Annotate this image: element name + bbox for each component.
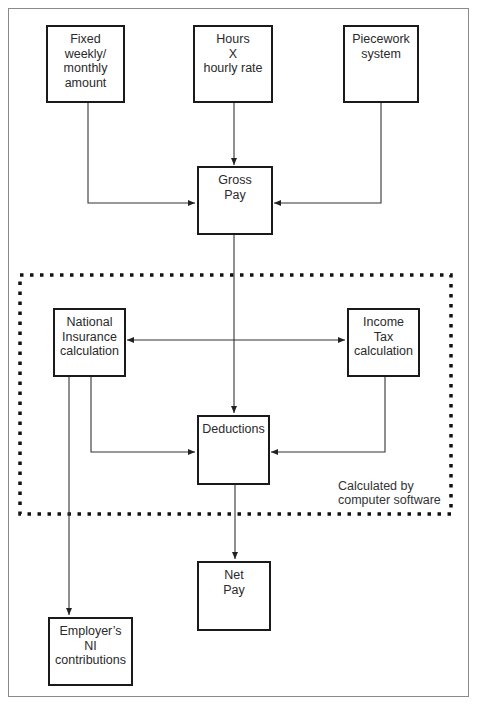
node-label-line: X xyxy=(195,47,271,62)
node-hours-rate: Hours X hourly rate xyxy=(193,25,273,103)
node-deductions: Deductions xyxy=(197,415,270,485)
node-label-line: Tax xyxy=(349,330,418,345)
node-label-line: Deductions xyxy=(199,422,268,437)
edge-ni-to-deductions xyxy=(91,376,195,452)
node-national-insurance: National Insurance calculation xyxy=(53,308,126,377)
edge-tax-to-deductions xyxy=(271,376,385,452)
node-label-line: amount xyxy=(48,76,123,91)
node-gross-pay: Gross Pay xyxy=(197,166,273,235)
node-label-line: system xyxy=(345,47,417,62)
node-label-line: Income xyxy=(349,315,418,330)
node-label-line: contributions xyxy=(50,653,131,668)
node-label-line: Employer’s xyxy=(50,624,131,639)
node-label-line: monthly xyxy=(48,61,123,76)
node-label-line: Piecework xyxy=(345,32,417,47)
node-label-line: Fixed xyxy=(48,32,123,47)
node-label-line: NI xyxy=(50,639,131,654)
node-label-line: Net xyxy=(199,568,269,583)
node-piecework: Piecework system xyxy=(343,25,419,103)
node-label-line: Pay xyxy=(199,188,271,203)
node-label-line: hourly rate xyxy=(195,61,271,76)
node-income-tax: Income Tax calculation xyxy=(347,308,420,377)
node-label-line: Gross xyxy=(199,173,271,188)
edge-piecework-to-gross xyxy=(274,102,381,203)
node-label-line: Insurance xyxy=(55,330,124,345)
node-label-line: Pay xyxy=(199,583,269,598)
node-label-line: National xyxy=(55,315,124,330)
edge-fixed-to-gross xyxy=(88,102,195,203)
node-employer-ni: Employer’s NI contributions xyxy=(48,617,133,686)
node-net-pay: Net Pay xyxy=(197,561,271,631)
node-label-line: Hours xyxy=(195,32,271,47)
software-group-label: Calculated by computer software xyxy=(338,479,441,507)
node-fixed-amount: Fixed weekly/ monthly amount xyxy=(46,25,125,103)
node-label-line: weekly/ xyxy=(48,47,123,62)
group-label-line: computer software xyxy=(338,493,441,507)
node-label-line: calculation xyxy=(55,344,124,359)
node-label-line: calculation xyxy=(349,344,418,359)
group-label-line: Calculated by xyxy=(338,479,441,493)
